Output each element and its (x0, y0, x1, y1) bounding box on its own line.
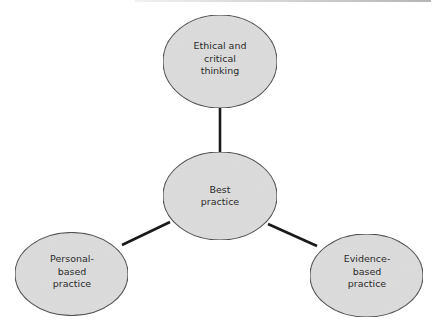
diagram-canvas (0, 0, 438, 330)
connector-bottom-right (268, 224, 317, 246)
node-best-practice (163, 152, 277, 240)
connector-bottom-left (122, 222, 170, 245)
node-ethical-critical-thinking (163, 15, 277, 108)
node-personal-based-practice (15, 233, 128, 316)
best-practice-diagram: Ethical and critical thinking Best pract… (0, 0, 438, 330)
node-evidence-based-practice (310, 234, 423, 317)
